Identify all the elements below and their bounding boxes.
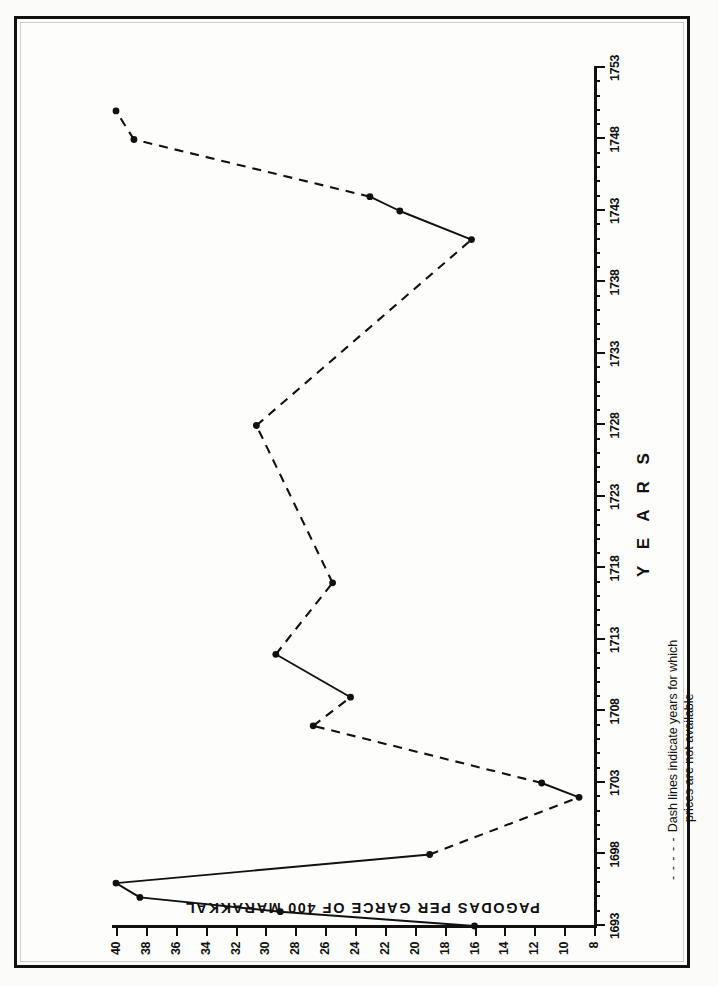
data-point-marker — [329, 579, 336, 586]
data-point-marker — [468, 236, 475, 243]
series-segment-solid — [400, 211, 472, 240]
data-point-marker — [310, 722, 317, 729]
data-point-marker — [277, 908, 284, 915]
series-segment-dashed — [116, 111, 134, 140]
series-segment-solid — [370, 197, 400, 211]
data-point-marker — [396, 208, 403, 215]
data-point-marker — [538, 780, 545, 787]
series-segment-dashed — [276, 583, 333, 655]
series-segment-solid — [542, 783, 579, 797]
series-segment-dashed — [313, 726, 542, 783]
series-segment-solid — [116, 883, 140, 897]
data-point-marker — [272, 651, 279, 658]
data-point-marker — [137, 894, 144, 901]
data-point-marker — [347, 694, 354, 701]
series-segment-solid — [116, 855, 430, 884]
data-point-marker — [113, 108, 120, 115]
data-point-marker — [426, 851, 433, 858]
data-point-marker — [367, 193, 374, 200]
plot-area — [38, 36, 714, 986]
series-segment-dashed — [313, 697, 350, 726]
series-segment-dashed — [256, 426, 332, 583]
figure-canvas: 1693169817031708171317181723172817331738… — [38, 36, 714, 986]
series-segment-dashed — [256, 240, 471, 426]
series-segment-solid — [280, 912, 474, 926]
data-point-marker — [576, 794, 583, 801]
series-segment-solid — [276, 654, 351, 697]
data-point-marker — [131, 136, 138, 143]
data-point-marker — [113, 880, 120, 887]
figure-border: 1693169817031708171317181723172817331738… — [14, 16, 690, 968]
series-segment-dashed — [430, 797, 579, 854]
data-point-marker — [253, 422, 260, 429]
series-segment-solid — [140, 897, 280, 911]
data-point-marker — [471, 923, 478, 930]
series-segment-dashed — [134, 140, 370, 197]
scanned-figure-page: 1693169817031708171317181723172817331738… — [0, 0, 718, 986]
rotated-figure-stage: 1693169817031708171317181723172817331738… — [38, 36, 714, 986]
price-series-plot — [38, 36, 714, 986]
